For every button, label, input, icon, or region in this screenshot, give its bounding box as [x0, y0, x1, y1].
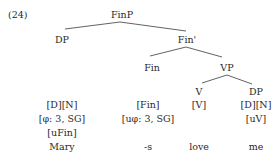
node-fin: Fin	[144, 62, 160, 73]
node-fin-bar: Fin'	[178, 34, 196, 45]
feature-me-uv: [uV]	[246, 113, 266, 124]
branch-vp-dp	[227, 75, 252, 84]
branch-finbar-fin	[150, 47, 186, 56]
node-v: V	[196, 86, 203, 97]
example-number: (24)	[8, 9, 28, 20]
feature-me-category: [D][N]	[241, 99, 272, 110]
node-vp: VP	[220, 62, 233, 73]
word-mary: Mary	[49, 141, 74, 152]
branch-vp-v	[202, 75, 227, 83]
feature-mary-phi: [φ: 3, SG]	[39, 113, 85, 124]
word-love: love	[189, 141, 209, 152]
feature-love-category: [V]	[192, 99, 206, 110]
feature-mary-ufin: [uFin]	[47, 127, 76, 138]
feature-s-uphi: [uφ: 3, SG]	[122, 113, 175, 124]
branch-finp-finbar	[120, 22, 186, 31]
feature-s-category: [Fin]	[136, 99, 159, 110]
tree-branches	[0, 0, 278, 161]
node-finp: FinP	[111, 9, 133, 20]
feature-mary-category: [D][N]	[47, 99, 78, 110]
word-s: -s	[144, 141, 152, 152]
node-dp-spec: DP	[55, 34, 69, 45]
branch-finp-dp	[65, 22, 120, 29]
word-me: me	[249, 141, 264, 152]
branch-finbar-vp	[186, 47, 222, 57]
node-dp-object: DP	[249, 86, 263, 97]
